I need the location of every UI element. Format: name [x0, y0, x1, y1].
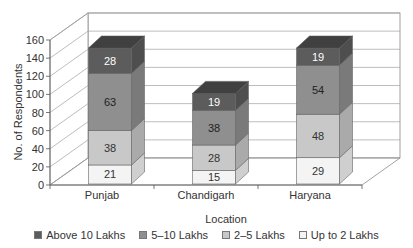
data-label: 54 — [312, 84, 324, 96]
y-tick-label: 0 — [38, 179, 44, 191]
x-tick-label: Chandigarh — [178, 189, 235, 201]
legend-swatch — [34, 231, 42, 239]
y-tick-label: 100 — [26, 88, 44, 100]
legend-swatch — [222, 231, 230, 239]
legend-swatch — [299, 231, 307, 239]
data-label: 28 — [104, 55, 116, 67]
x-tick-label: Punjab — [85, 189, 119, 201]
data-label: 21 — [104, 168, 116, 180]
legend-item: 2–5 Lakhs — [222, 229, 285, 241]
data-label: 15 — [208, 171, 220, 183]
stacked-3d-bar-chart: 213863281528381929485419 020406080100120… — [0, 0, 413, 228]
legend-item: Above 10 Lakhs — [34, 229, 125, 241]
data-label: 29 — [312, 165, 324, 177]
y-tick-label: 20 — [32, 161, 44, 173]
data-label: 38 — [208, 122, 220, 134]
x-axis-title: Location — [205, 213, 247, 225]
legend-label: 5–10 Lakhs — [151, 229, 208, 241]
y-tick-label: 140 — [26, 52, 44, 64]
chart-legend: Above 10 Lakhs5–10 Lakhs2–5 LakhsUp to 2… — [0, 229, 413, 241]
data-label: 63 — [104, 96, 116, 108]
data-label: 48 — [312, 130, 324, 142]
y-tick-label: 40 — [32, 143, 44, 155]
data-label: 38 — [104, 142, 116, 154]
bar-stack-haryana: 29485419 — [297, 36, 353, 184]
legend-label: 2–5 Lakhs — [234, 229, 285, 241]
x-tick-label: Haryana — [289, 189, 331, 201]
data-label: 19 — [208, 96, 220, 108]
legend-item: Up to 2 Lakhs — [299, 229, 379, 241]
data-label: 28 — [208, 152, 220, 164]
y-tick-label: 80 — [32, 107, 44, 119]
data-label: 19 — [312, 51, 324, 63]
bar-stack-punjab: 21386328 — [89, 36, 145, 184]
bar-stack-chandigarh: 15283819 — [193, 81, 249, 184]
legend-item: 5–10 Lakhs — [139, 229, 208, 241]
y-tick-label: 60 — [32, 125, 44, 137]
y-tick-label: 160 — [26, 34, 44, 46]
legend-swatch — [139, 231, 147, 239]
y-tick-label: 120 — [26, 70, 44, 82]
legend-label: Above 10 Lakhs — [46, 229, 125, 241]
legend-label: Up to 2 Lakhs — [311, 229, 379, 241]
y-axis-title: No. of Respondents — [12, 63, 24, 161]
